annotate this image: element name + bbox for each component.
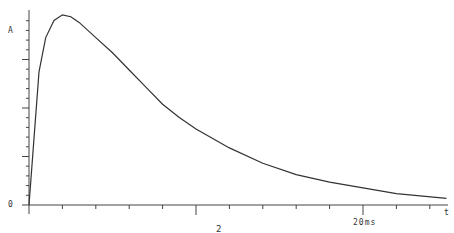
- y-axis-label: A: [8, 26, 14, 35]
- pulse-curve: [29, 15, 447, 205]
- zero-label: 0: [8, 200, 14, 209]
- x-axis-label: t: [444, 208, 450, 217]
- x-major-label: 20ms: [353, 218, 376, 227]
- chart-plot: [0, 0, 454, 233]
- footnote-label: 2: [216, 224, 222, 233]
